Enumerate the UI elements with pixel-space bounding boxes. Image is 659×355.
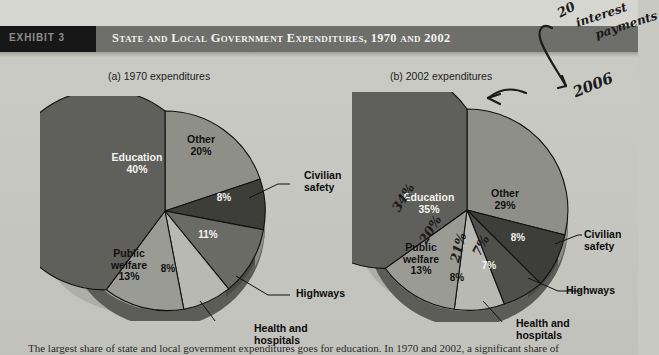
pie-a-highways-leader-label: Highways bbox=[296, 288, 345, 300]
pie-a-public-welfare-label: Public welfare 13% bbox=[96, 248, 162, 283]
pie-a-other-label: Other 20% bbox=[170, 134, 232, 157]
chart-b-subtitle: (b) 2002 expenditures bbox=[390, 70, 492, 82]
pie-a-education-label: Education 40% bbox=[92, 152, 182, 175]
pie-a-cs-line2: safety bbox=[304, 181, 334, 193]
chart-a-subtitle: (a) 1970 expenditures bbox=[108, 70, 210, 82]
exhibit-title: State and Local Government Expenditures,… bbox=[112, 31, 451, 46]
pie-b-health-line1: Health and bbox=[516, 317, 570, 329]
pie-chart-1970: Education 40% Other 20% 8% 11% 8% Public… bbox=[40, 96, 290, 321]
pie-a-civilian-safety-leader-label: Civilian safety bbox=[304, 170, 341, 193]
pie-a-public-welfare-name2: welfare bbox=[111, 259, 147, 271]
pie-a-other-name: Other bbox=[187, 133, 215, 145]
pie-b-public-welfare-label: Public welfare 13% bbox=[388, 242, 454, 277]
pie-a-public-welfare-name1: Public bbox=[113, 247, 145, 259]
pie-b-health-leader-label: Health and hospitals bbox=[516, 318, 570, 341]
pie-b-highways-pct: 7% bbox=[475, 260, 503, 272]
pie-b-education-label: Education 35% bbox=[384, 192, 474, 215]
exhibit-tab-label: EXHIBIT 3 bbox=[9, 32, 65, 43]
handwritten-arrowhead-down bbox=[558, 76, 566, 88]
caption-text: The largest share of state and local gov… bbox=[28, 342, 628, 354]
pie-a-highways-pct: 11% bbox=[192, 229, 224, 241]
pie-a-svg bbox=[40, 96, 290, 321]
pie-b-health-line2: hospitals bbox=[516, 329, 562, 341]
pie-b-public-welfare-name2: welfare bbox=[403, 253, 439, 265]
page-top-margin bbox=[0, 0, 638, 26]
pie-b-cs-line2: safety bbox=[584, 240, 614, 252]
pie-b-other-name: Other bbox=[491, 187, 519, 199]
pie-b-education-pct: 35% bbox=[418, 203, 439, 215]
pie-a-cs-line1: Civilian bbox=[304, 169, 341, 181]
pie-b-highways-leader-label: Highways bbox=[566, 285, 615, 297]
pie-b-other-label: Other 29% bbox=[474, 188, 536, 211]
pie-a-civilian-safety-pct: 8% bbox=[210, 192, 238, 204]
pie-b-civilian-safety-pct: 8% bbox=[504, 232, 532, 244]
pie-a-education-name: Education bbox=[112, 151, 163, 163]
pie-b-civilian-safety-leader-label: Civilian safety bbox=[584, 229, 621, 252]
pie-b-cs-line1: Civilian bbox=[584, 228, 621, 240]
pie-b-other-pct: 29% bbox=[494, 199, 515, 211]
pie-b-public-welfare-name1: Public bbox=[405, 241, 437, 253]
pie-a-public-welfare-pct: 13% bbox=[118, 270, 139, 282]
pie-b-education-name: Education bbox=[404, 191, 455, 203]
pie-a-education-pct: 40% bbox=[126, 163, 147, 175]
pie-a-health-line1: Health and bbox=[254, 322, 308, 334]
pie-a-other-pct: 20% bbox=[190, 145, 211, 157]
pie-chart-2002: Education 35% Other 29% 8% 7% 8% Public … bbox=[352, 92, 582, 322]
banner-drop-shadow bbox=[0, 52, 638, 57]
pie-b-public-welfare-pct: 13% bbox=[410, 264, 431, 276]
